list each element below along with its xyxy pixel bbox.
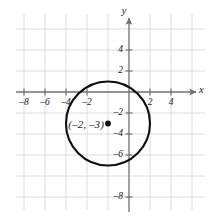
y-tick-label-2: 2 — [118, 66, 123, 76]
center-point-label: (–2, –3) — [68, 119, 104, 130]
grid-lines-horizontal — [16, 29, 205, 197]
y-axis-label: y — [122, 6, 127, 17]
y-tick-label--2: –2 — [114, 108, 124, 118]
x-tick-label--2: –2 — [82, 98, 92, 108]
y-tick-label--4: –4 — [114, 129, 124, 139]
y-tick-label-4: 4 — [118, 45, 123, 55]
grid-lines-vertical — [24, 14, 192, 210]
x-tick-label--4: –4 — [61, 98, 71, 108]
x-tick-label--6: –6 — [40, 98, 50, 108]
center-point-marker — [105, 121, 111, 127]
graph-figure: –8 –6 –4 –2 2 4 4 2 –2 –4 –6 –8 y x (–2,… — [0, 0, 212, 221]
coordinate-plane-svg — [0, 0, 212, 221]
y-tick-label--6: –6 — [114, 150, 124, 160]
y-tick-label--8: –8 — [114, 192, 124, 202]
x-tick-label--8: –8 — [19, 98, 29, 108]
x-tick-label-4: 4 — [169, 98, 174, 108]
x-axis-label: x — [199, 85, 204, 96]
x-tick-label-2: 2 — [148, 98, 153, 108]
